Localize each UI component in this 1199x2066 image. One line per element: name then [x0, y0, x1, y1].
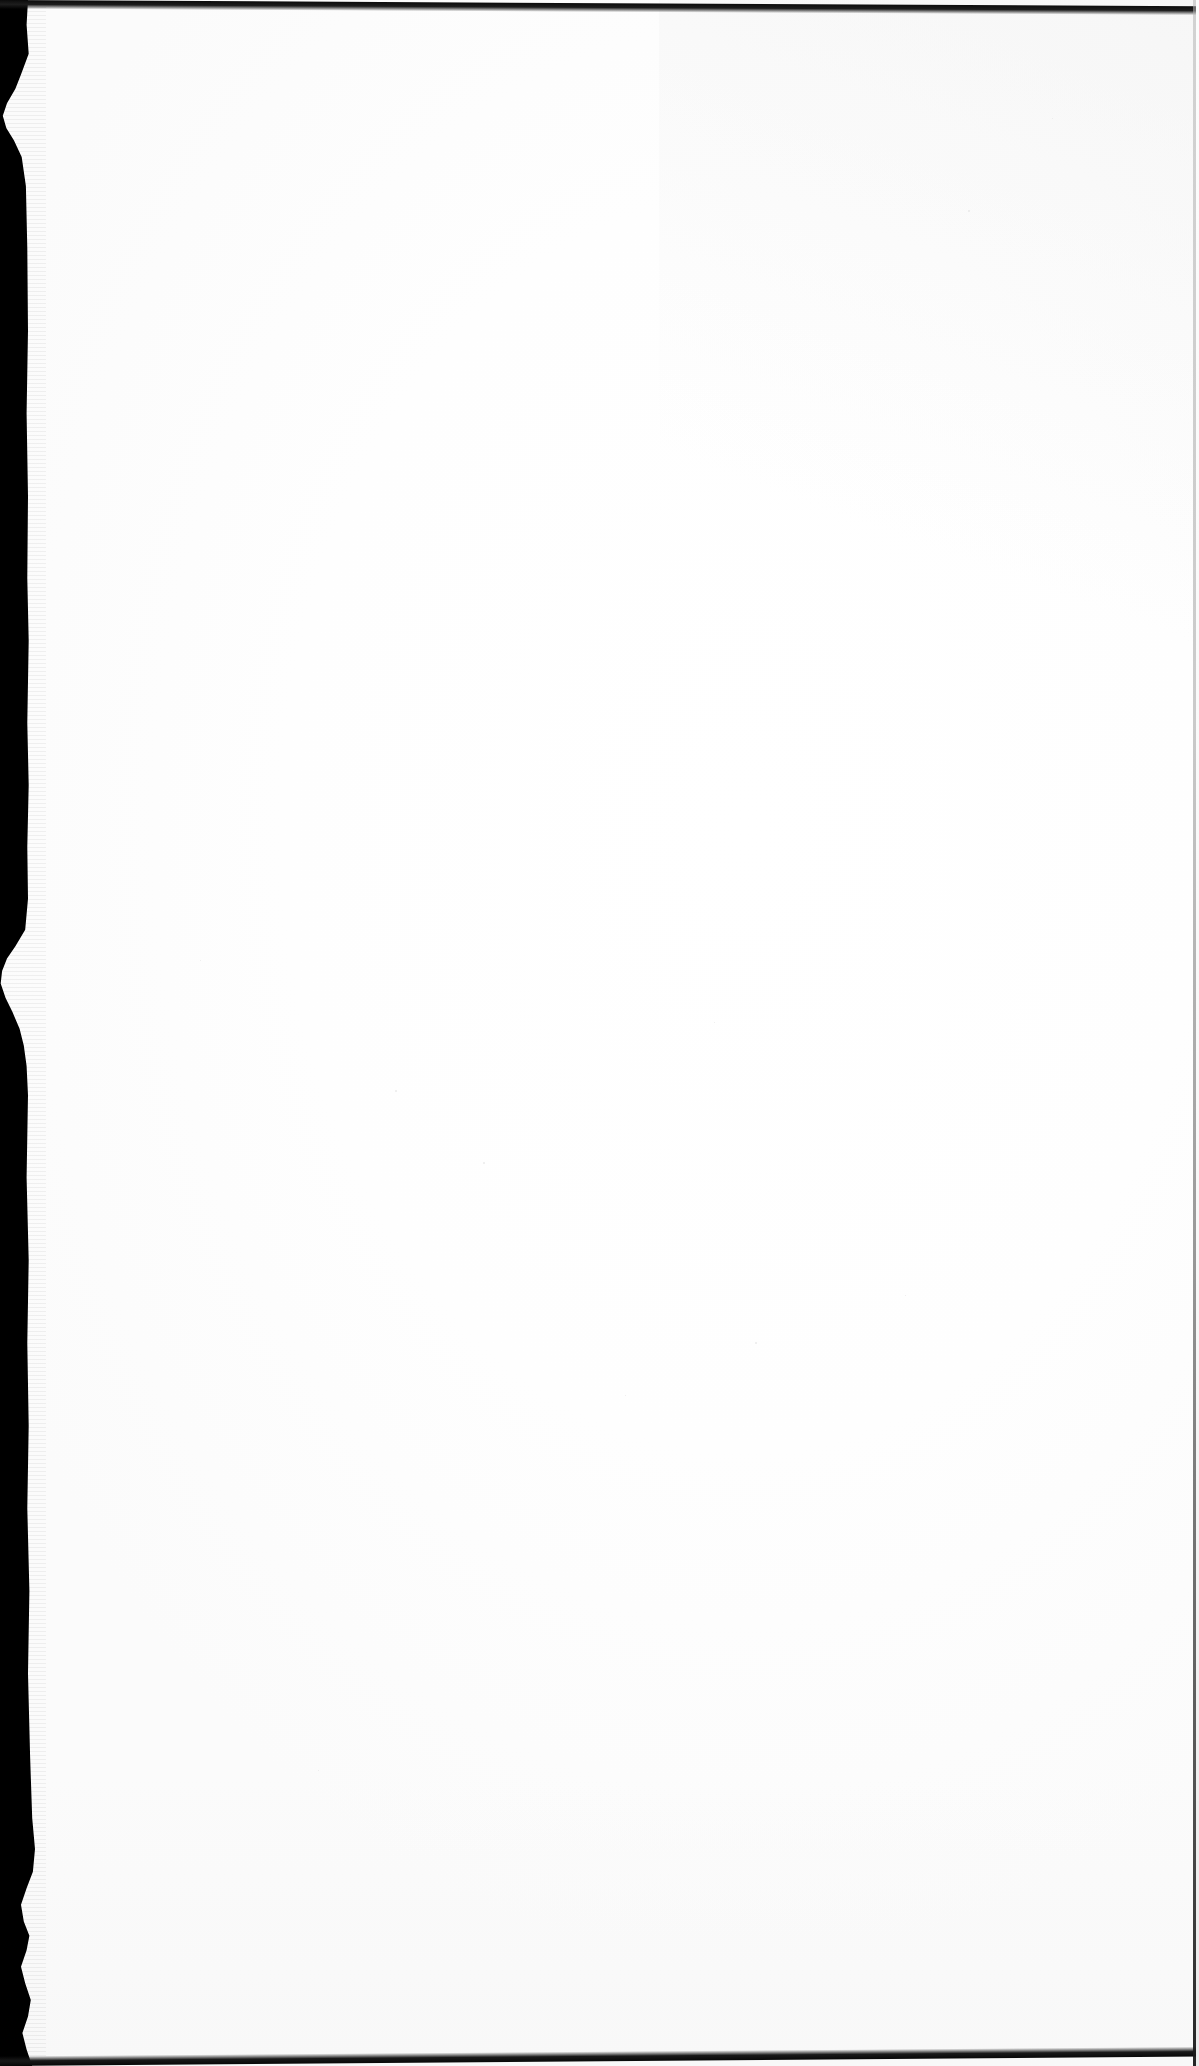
scan-speck: [755, 1342, 757, 1344]
scanned-page: [0, 0, 1199, 2066]
scan-speck: [200, 960, 201, 961]
scan-speck: [483, 1162, 485, 1164]
scan-speck: [905, 1295, 906, 1296]
paper-tone-upper-right: [659, 0, 1199, 702]
paper-surface: [0, 0, 1199, 2066]
scan-speck: [625, 1395, 626, 1396]
scan-speck: [968, 210, 970, 212]
right-edge-line: [1193, 0, 1196, 2066]
scan-speck: [318, 1770, 319, 1771]
scan-speck: [395, 1090, 397, 1092]
scan-speck: [1052, 118, 1053, 119]
paper-tone-lower: [0, 1777, 1199, 2066]
scan-speck: [714, 1022, 715, 1023]
